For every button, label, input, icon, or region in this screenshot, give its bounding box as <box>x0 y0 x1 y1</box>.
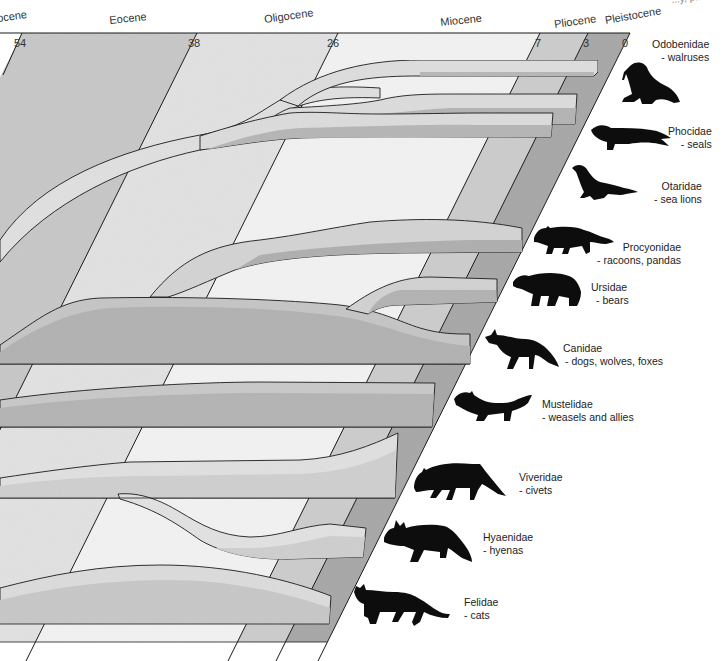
family-common: - sea lions <box>654 193 702 206</box>
tick-3: 3 <box>583 37 589 49</box>
family-name: Viveridae <box>519 471 563 483</box>
family-common: - bears <box>591 294 629 307</box>
family-common: - civets <box>519 484 563 497</box>
raccoon-icon <box>532 224 616 258</box>
family-name: Phocidae <box>668 125 712 137</box>
family-name: Ursidae <box>591 281 627 293</box>
cat-icon <box>352 582 452 628</box>
family-name: Felidae <box>464 596 498 608</box>
tick-7: 7 <box>535 37 541 49</box>
walrus-icon <box>616 60 682 108</box>
family-label-canidae: Canidae - dogs, wolves, foxes <box>563 342 663 368</box>
family-name: Procyonidae <box>623 241 681 253</box>
family-common: - hyenas <box>483 544 533 557</box>
tick-38: 38 <box>188 37 200 49</box>
family-label-felidae: Felidae - cats <box>464 596 498 622</box>
family-name: Odobenidae <box>652 38 709 50</box>
family-name: Hyaenidae <box>483 531 533 543</box>
family-common: - dogs, wolves, foxes <box>563 355 663 368</box>
tick-0: 0 <box>622 37 628 49</box>
family-common: - seals <box>668 138 712 151</box>
family-name: Canidae <box>563 342 602 354</box>
fox-icon <box>483 327 559 371</box>
tick-26: 26 <box>327 37 339 49</box>
family-label-phocidae: Phocidae - seals <box>668 125 712 151</box>
family-name: Mustelidae <box>542 398 593 410</box>
sea-lion-icon <box>570 164 640 202</box>
bear-icon <box>511 270 583 308</box>
family-label-hyaenidae: Hyaenidae - hyenas <box>483 531 533 557</box>
family-name: Otaridae <box>662 180 702 192</box>
family-label-viveridae: Viveridae - civets <box>519 471 563 497</box>
family-label-otaridae: Otaridae - sea lions <box>654 180 702 206</box>
civet-icon <box>412 460 508 504</box>
family-label-ursidae: Ursidae - bears <box>591 281 629 307</box>
family-common: - cats <box>464 609 498 622</box>
family-label-mustelidae: Mustelidae - weasels and allies <box>542 398 634 424</box>
seal-icon <box>589 122 673 152</box>
tick-54: 54 <box>14 37 26 49</box>
weasel-icon <box>452 389 532 427</box>
hyena-icon <box>382 518 474 566</box>
family-common: - weasels and allies <box>542 411 634 424</box>
phylogeny-diagram: ocene Eocene Oligocene Miocene Pliocene … <box>0 0 727 661</box>
